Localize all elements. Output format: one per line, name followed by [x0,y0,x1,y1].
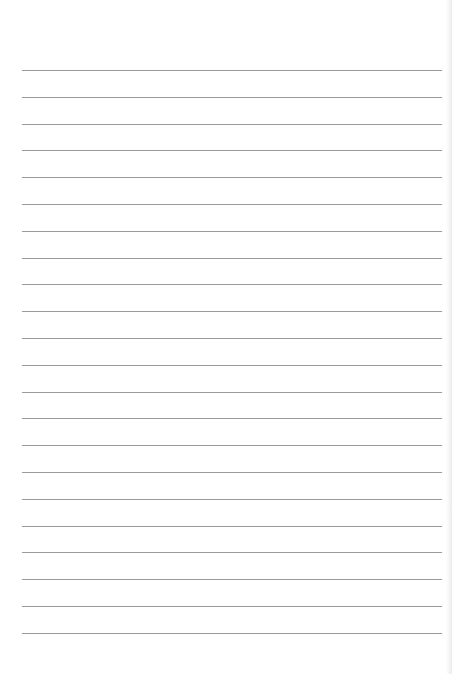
ruled-line [22,445,442,446]
ruled-line [22,311,442,312]
ruled-line [22,97,442,98]
page-edge-shadow [446,0,452,674]
lined-paper-page [0,0,452,674]
ruled-line [22,526,442,527]
ruled-line [22,231,442,232]
ruled-line [22,365,442,366]
ruled-line [22,124,442,125]
ruled-line [22,204,442,205]
ruled-line [22,552,442,553]
ruled-line [22,633,442,634]
ruled-line [22,70,442,71]
ruled-line [22,579,442,580]
ruled-line [22,606,442,607]
ruled-line [22,177,442,178]
ruled-line [22,472,442,473]
ruled-line [22,258,442,259]
ruled-line [22,284,442,285]
ruled-line [22,338,442,339]
ruled-line [22,418,442,419]
ruled-line [22,392,442,393]
ruled-line [22,499,442,500]
ruled-line [22,150,442,151]
